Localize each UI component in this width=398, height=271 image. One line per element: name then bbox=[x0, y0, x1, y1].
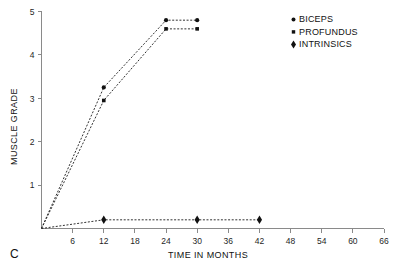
legend-marker-circle-icon bbox=[292, 17, 296, 21]
x-tick-label: 54 bbox=[317, 236, 327, 246]
figure-panel-c: 12345 MUSCLE GRADE 612182430364248546066… bbox=[0, 0, 398, 271]
series-line bbox=[42, 20, 198, 228]
y-tick-label: 2 bbox=[30, 137, 35, 147]
x-axis-tick-labels: 612182430364248546066 bbox=[70, 236, 389, 246]
x-tick-label: 48 bbox=[286, 236, 296, 246]
chart-legend: BICEPSPROFUNDUSINTRINSICS bbox=[291, 14, 358, 49]
y-tick-label: 3 bbox=[30, 94, 35, 104]
series-line bbox=[42, 29, 198, 229]
data-point-square bbox=[164, 27, 168, 31]
panel-label: C bbox=[10, 247, 19, 261]
data-point-square bbox=[195, 27, 199, 31]
legend-marker-square-icon bbox=[292, 30, 295, 33]
legend-marker-diamond-icon bbox=[291, 40, 296, 48]
x-tick-label: 12 bbox=[99, 236, 109, 246]
legend-entry-intrinsics: INTRINSICS bbox=[291, 39, 352, 49]
x-tick-label: 36 bbox=[224, 236, 234, 246]
series-intrinsics bbox=[42, 216, 263, 229]
x-axis-ticks bbox=[73, 229, 384, 233]
x-axis-title: TIME IN MONTHS bbox=[168, 250, 248, 260]
y-axis-title: MUSCLE GRADE bbox=[9, 88, 19, 165]
data-point-circle bbox=[195, 18, 199, 22]
chart-canvas: 12345 MUSCLE GRADE 612182430364248546066… bbox=[0, 0, 398, 271]
y-tick-label: 5 bbox=[30, 7, 35, 17]
x-tick-label: 30 bbox=[192, 236, 202, 246]
data-point-diamond bbox=[257, 216, 262, 224]
legend-label: INTRINSICS bbox=[299, 39, 352, 49]
x-tick-label: 24 bbox=[161, 236, 171, 246]
y-axis-ticks bbox=[38, 12, 42, 186]
x-tick-label: 6 bbox=[70, 236, 75, 246]
y-axis-tick-labels: 12345 bbox=[30, 7, 35, 191]
series-line bbox=[42, 220, 260, 229]
legend-entry-biceps: BICEPS bbox=[292, 14, 334, 24]
y-tick-label: 1 bbox=[30, 180, 35, 190]
x-axis: 612182430364248546066 TIME IN MONTHS bbox=[42, 229, 389, 261]
legend-label: PROFUNDUS bbox=[299, 27, 358, 37]
x-tick-label: 42 bbox=[255, 236, 265, 246]
y-axis: 12345 MUSCLE GRADE bbox=[9, 7, 42, 228]
legend-label: BICEPS bbox=[299, 14, 333, 24]
legend-entry-profundus: PROFUNDUS bbox=[292, 27, 358, 37]
x-tick-label: 60 bbox=[348, 236, 358, 246]
data-point-square bbox=[102, 99, 106, 103]
series-biceps bbox=[42, 18, 200, 228]
data-series-layer bbox=[42, 18, 263, 228]
x-tick-label: 18 bbox=[130, 236, 140, 246]
y-tick-label: 4 bbox=[30, 50, 35, 60]
data-point-diamond bbox=[195, 216, 200, 224]
series-profundus bbox=[42, 27, 199, 228]
data-point-circle bbox=[102, 85, 106, 89]
x-tick-label: 66 bbox=[379, 236, 389, 246]
data-point-circle bbox=[164, 18, 168, 22]
data-point-diamond bbox=[101, 216, 106, 224]
